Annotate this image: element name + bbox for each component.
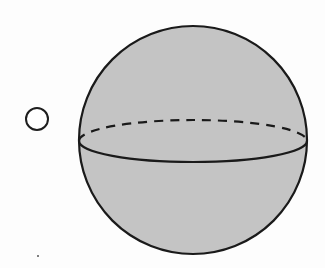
sphere-body [79,26,307,254]
answer-option [0,0,325,268]
sphere-figure [0,0,325,268]
stray-mark [37,255,39,257]
